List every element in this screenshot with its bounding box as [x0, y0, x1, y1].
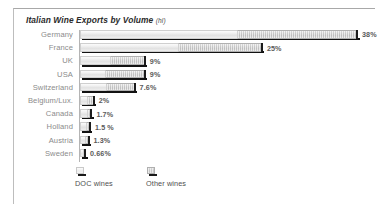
value-label: 9%: [150, 57, 161, 66]
category-label: Switzerland: [33, 83, 73, 92]
bar-row: Germany38%: [14, 29, 376, 42]
bar-segment-doc-wines[interactable]: [80, 96, 87, 105]
category-label: Austria: [49, 136, 73, 145]
legend-swatch-other: [147, 167, 155, 174]
bar-group[interactable]: [80, 96, 97, 105]
bar-group[interactable]: [80, 43, 265, 52]
bar-segment-doc-wines[interactable]: [80, 70, 105, 79]
legend-swatch-box: [147, 167, 155, 174]
bar-group[interactable]: [80, 122, 93, 131]
category-label: Germany: [41, 30, 73, 39]
bar-segment-other-wines[interactable]: [105, 70, 146, 79]
bar-segment-doc-wines[interactable]: [80, 56, 110, 65]
bar-row: Sweden0.66%: [14, 148, 376, 161]
category-label: France: [49, 43, 73, 52]
stacked-bar[interactable]: [80, 149, 86, 158]
value-label: 9%: [150, 70, 161, 79]
stacked-bar[interactable]: [80, 30, 358, 39]
stacked-bar[interactable]: [80, 136, 90, 145]
chart-title-text: Italian Wine Exports by Volume: [26, 15, 153, 25]
bar-group[interactable]: [80, 109, 94, 118]
category-label: USA: [57, 70, 73, 79]
legend-swatch-doc: [76, 167, 84, 174]
stacked-bar[interactable]: [80, 56, 146, 65]
bar-segment-other-wines[interactable]: [106, 83, 135, 92]
bar-end-cap: [84, 149, 86, 158]
value-label: 1.7%: [96, 110, 113, 119]
bar-end-cap: [88, 136, 90, 145]
chart-legend: DOC winesOther wines: [14, 167, 376, 197]
bar-segment-other-wines[interactable]: [178, 43, 263, 52]
bar-group[interactable]: [80, 56, 148, 65]
legend-item[interactable]: Other wines: [147, 167, 155, 174]
value-label: 2%: [99, 96, 110, 105]
bar-end-cap: [93, 96, 95, 105]
bar-row: France25%: [14, 42, 376, 55]
bar-segment-other-wines[interactable]: [237, 30, 358, 39]
value-label: 7.6%: [140, 83, 157, 92]
bar-group[interactable]: [80, 30, 360, 39]
bar-segment-doc-wines[interactable]: [80, 30, 237, 39]
bar-segment-doc-wines[interactable]: [80, 43, 178, 52]
stacked-bar[interactable]: [80, 96, 95, 105]
stacked-bar[interactable]: [80, 83, 136, 92]
legend-label: DOC wines: [75, 179, 113, 188]
value-label: 38%: [362, 30, 377, 39]
bar-row: Belgium/Lux.2%: [14, 95, 376, 108]
bar-row: Austria1.3%: [14, 135, 376, 148]
chart-title: Italian Wine Exports by Volume (hl): [26, 15, 166, 25]
bar-end-cap: [134, 83, 136, 92]
value-label: 0.66%: [90, 149, 111, 158]
category-label: Sweden: [45, 149, 73, 158]
bar-end-cap: [356, 30, 358, 39]
bar-row: Switzerland7.6%: [14, 82, 376, 95]
bar-end-cap: [261, 43, 263, 52]
bar-row: Canada1.7%: [14, 108, 376, 121]
bar-end-cap: [144, 56, 146, 65]
bar-group[interactable]: [80, 83, 138, 92]
category-label: Canada: [46, 109, 73, 118]
stacked-bar[interactable]: [80, 70, 146, 79]
value-label: 1.5 %: [95, 123, 114, 132]
category-label: Holland: [47, 122, 73, 131]
bar-group[interactable]: [80, 136, 92, 145]
bar-row: UK9%: [14, 55, 376, 68]
bar-end-cap: [144, 70, 146, 79]
plot-area: Germany38%France25%UK9%USA9%Switzerland7…: [14, 29, 376, 165]
stacked-bar[interactable]: [80, 43, 263, 52]
value-label: 25%: [267, 44, 282, 53]
legend-label: Other wines: [146, 179, 186, 188]
stacked-bar[interactable]: [80, 109, 92, 118]
chart-title-unit: (hl): [156, 17, 166, 24]
bar-end-cap: [89, 122, 91, 131]
bar-row: USA9%: [14, 69, 376, 82]
bar-segment-other-wines[interactable]: [110, 56, 146, 65]
legend-swatch-box: [76, 167, 84, 174]
bar-group[interactable]: [80, 149, 88, 158]
bar-row: Holland1.5 %: [14, 121, 376, 134]
bar-segment-doc-wines[interactable]: [80, 83, 106, 92]
value-label: 1.3%: [94, 136, 111, 145]
category-label: UK: [62, 56, 73, 65]
chart-frame: Italian Wine Exports by Volume (hl) Germ…: [13, 8, 375, 204]
bar-segment-doc-wines[interactable]: [80, 109, 87, 118]
stacked-bar[interactable]: [80, 122, 91, 131]
category-label: Belgium/Lux.: [28, 96, 73, 105]
legend-item[interactable]: DOC wines: [76, 167, 84, 174]
bar-end-cap: [90, 109, 92, 118]
bar-group[interactable]: [80, 70, 148, 79]
